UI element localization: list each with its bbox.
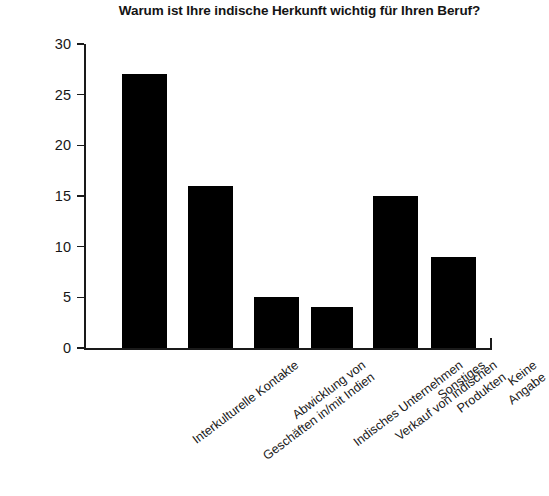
y-axis-tick-label: 25 <box>55 87 71 102</box>
bar <box>311 307 353 348</box>
bar <box>373 196 418 348</box>
y-axis-tick: 10 <box>77 246 84 248</box>
bar <box>122 74 167 348</box>
bar <box>188 186 233 348</box>
y-axis-tick-label: 0 <box>63 341 71 356</box>
x-axis-label-keine-angabe: Keine Angabe <box>492 358 549 411</box>
bar <box>431 257 476 348</box>
chart-title: Warum ist Ihre indische Herkunft wichtig… <box>0 3 531 18</box>
bar <box>254 297 299 348</box>
y-axis-tick-label: 30 <box>55 37 71 52</box>
y-axis-tick: 5 <box>77 297 84 299</box>
y-axis-tick-label: 5 <box>63 290 71 305</box>
y-axis-tick: 20 <box>77 145 84 147</box>
y-axis-tick-label: 15 <box>55 189 71 204</box>
y-axis-tick: 15 <box>77 195 84 197</box>
x-axis-end-tick <box>490 338 492 349</box>
y-axis-tick: 30 <box>77 43 84 45</box>
y-axis-tick: 25 <box>77 94 84 96</box>
y-axis-tick: 0 <box>77 347 84 349</box>
x-axis-line <box>84 348 492 350</box>
y-axis-tick-label: 20 <box>55 138 71 153</box>
plot-area: 0 5 10 15 20 25 30 <box>84 44 492 348</box>
y-axis-tick-label: 10 <box>55 239 71 254</box>
y-axis-line <box>84 44 86 348</box>
